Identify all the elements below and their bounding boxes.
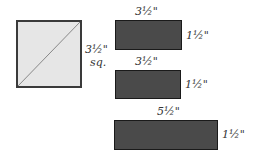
rect3-height-label: 1½"	[222, 129, 245, 140]
square-size-label: 3½"	[85, 44, 108, 55]
dark-rectangle-2	[115, 70, 181, 99]
dark-rectangle-3	[114, 120, 218, 150]
rect3-width-label: 5½"	[157, 106, 180, 117]
rect2-width-label: 3½"	[135, 56, 158, 67]
square-sq-label: sq.	[90, 57, 106, 68]
diagonal-line	[18, 22, 80, 86]
rect1-width-label: 3½"	[135, 6, 158, 17]
light-square-half-diagonal	[16, 20, 82, 88]
rect2-height-label: 1½"	[185, 79, 208, 90]
dark-rectangle-1	[115, 20, 182, 50]
rect1-height-label: 1½"	[186, 30, 209, 41]
